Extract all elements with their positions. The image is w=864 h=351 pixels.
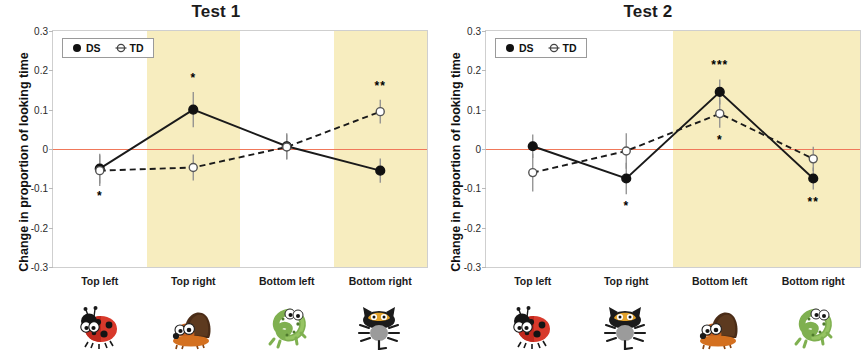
- y-axis-tick-label: 0.3: [34, 26, 48, 37]
- data-point-td: [376, 108, 384, 116]
- chart-panel-test-1: Test 1 Change in proportion of looking t…: [0, 0, 432, 351]
- legend-entry-ds: DS: [503, 42, 534, 54]
- chart-legend: DSTD: [62, 38, 154, 58]
- data-point-ds: [528, 142, 537, 151]
- y-axis-tick-label: 0.3: [467, 26, 481, 37]
- chart-panel-test-2: Test 2 Change in proportion of looking t…: [432, 0, 864, 351]
- stimulus-icon-row: [432, 301, 864, 351]
- x-axis-tick-label: Top right: [604, 275, 649, 287]
- legend-entry-ds: DS: [70, 42, 101, 54]
- significance-marker: ***: [711, 59, 728, 71]
- y-axis-tick-label: 0: [42, 144, 48, 155]
- significance-marker: *: [623, 200, 629, 212]
- y-axis-tick-label: -0.2: [31, 222, 48, 233]
- y-axis-title: Change in proportion of looking time: [449, 42, 463, 282]
- y-axis-tick-label: -0.2: [464, 222, 481, 233]
- significance-marker: *: [97, 190, 103, 202]
- data-point-ds: [809, 174, 818, 183]
- y-axis-tick-label: -0.3: [464, 262, 481, 273]
- legend-label-td: TD: [563, 42, 577, 54]
- legend-label-td: TD: [130, 42, 144, 54]
- data-point-td: [189, 163, 197, 171]
- hedgehog-icon: [696, 302, 742, 350]
- open-marker-icon: [114, 43, 128, 53]
- data-point-ds: [622, 174, 631, 183]
- cat-icon: [356, 302, 402, 350]
- y-axis-tick-label: -0.1: [31, 183, 48, 194]
- data-point-td: [96, 167, 104, 175]
- significance-marker: **: [375, 80, 386, 92]
- legend-entry-td: TD: [547, 42, 577, 54]
- series-line-ds: [100, 110, 381, 171]
- hedgehog-icon: [169, 302, 215, 350]
- cat-icon: [602, 302, 648, 350]
- plot-area: 0.30.20.10-0.1-0.2-0.3Top leftTop rightB…: [52, 30, 428, 268]
- y-axis-tick-label: 0.1: [34, 104, 48, 115]
- lizard-icon: [789, 302, 835, 350]
- y-axis-tick-label: 0: [475, 144, 481, 155]
- series-line-td: [533, 114, 814, 173]
- data-point-ds: [376, 166, 385, 175]
- y-axis-tick-label: 0.1: [467, 104, 481, 115]
- figure-two-panel-line-charts: Test 1 Change in proportion of looking t…: [0, 0, 864, 351]
- data-point-td: [283, 143, 291, 151]
- chart-legend: DSTD: [495, 38, 587, 58]
- y-axis-tick-mark: [49, 267, 53, 268]
- x-axis-tick-label: Bottom left: [692, 275, 747, 287]
- plot-area: 0.30.20.10-0.1-0.2-0.3Top leftTop rightB…: [485, 30, 861, 268]
- significance-marker: *: [717, 134, 723, 146]
- y-axis-title: Change in proportion of looking time: [17, 42, 31, 282]
- open-marker-icon: [547, 43, 561, 53]
- data-point-td: [622, 147, 630, 155]
- legend-entry-td: TD: [114, 42, 144, 54]
- x-axis-tick-label: Top left: [81, 275, 118, 287]
- series-line-ds: [533, 92, 814, 179]
- x-axis-tick-label: Top right: [171, 275, 216, 287]
- ladybug-icon: [76, 302, 122, 350]
- stimulus-icon-row: [0, 301, 432, 351]
- legend-label-ds: DS: [86, 42, 101, 54]
- x-axis-tick-label: Bottom right: [349, 275, 412, 287]
- panel-title: Test 2: [432, 2, 864, 22]
- data-point-ds: [715, 88, 724, 97]
- significance-marker: **: [808, 196, 819, 208]
- lizard-icon: [263, 302, 309, 350]
- y-axis-tick-label: -0.1: [464, 183, 481, 194]
- filled-marker-icon: [503, 43, 517, 53]
- data-point-td: [716, 110, 724, 118]
- data-series-layer: [486, 31, 860, 267]
- data-point-td: [809, 155, 817, 163]
- y-axis-tick-mark: [482, 267, 486, 268]
- ladybug-icon: [509, 302, 555, 350]
- significance-marker: *: [190, 72, 196, 84]
- data-point-ds: [189, 105, 198, 114]
- x-axis-tick-label: Bottom right: [782, 275, 845, 287]
- panel-title: Test 1: [0, 2, 432, 22]
- y-axis-tick-label: 0.2: [34, 65, 48, 76]
- data-series-layer: [53, 31, 427, 267]
- legend-label-ds: DS: [519, 42, 534, 54]
- y-axis-tick-label: -0.3: [31, 262, 48, 273]
- y-axis-tick-label: 0.2: [467, 65, 481, 76]
- x-axis-tick-label: Top left: [514, 275, 551, 287]
- x-axis-tick-label: Bottom left: [259, 275, 314, 287]
- data-point-td: [529, 169, 537, 177]
- filled-marker-icon: [70, 43, 84, 53]
